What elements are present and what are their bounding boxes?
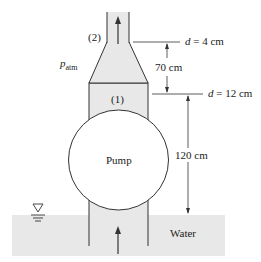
diameter-bottom-value: = 12 cm [214,87,253,99]
patm-subscript: atm [66,63,78,72]
diameter-top-value: = 4 cm [191,35,224,47]
atmospheric-pressure-label: patm [60,58,78,72]
section-1-label: (1) [111,94,124,105]
height-total-label: 120 cm [175,150,208,161]
nozzle-cone [89,42,148,83]
pump-label: Pump [106,155,132,166]
section-2-label: (2) [88,32,101,43]
diameter-bottom-label: d = 12 cm [208,88,252,99]
height-cone-label: 70 cm [155,62,182,73]
water-label: Water [170,228,196,239]
diameter-top-label: d = 4 cm [185,36,224,47]
water-surface-symbol-icon [31,204,45,221]
